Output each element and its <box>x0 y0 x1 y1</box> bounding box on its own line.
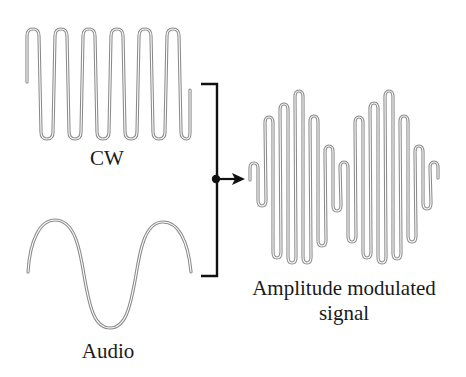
am-label-line2: signal <box>319 301 369 325</box>
am-diagram: CW Audio Amplitude modulated signal <box>0 0 466 377</box>
audio-label: Audio <box>82 339 135 363</box>
am-label-line1: Amplitude modulated <box>252 276 436 300</box>
audio-wave <box>28 220 191 328</box>
cw-label: CW <box>90 146 124 170</box>
am-wave <box>250 91 438 263</box>
cw-wave <box>27 29 190 139</box>
